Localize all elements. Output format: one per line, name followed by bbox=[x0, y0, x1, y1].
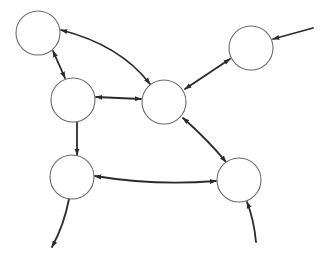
edge-external-n6 bbox=[247, 202, 256, 242]
node-n3 bbox=[51, 78, 95, 122]
edge-n4-n1 bbox=[61, 30, 150, 84]
graph-diagram bbox=[0, 0, 323, 262]
edge-n4-n2 bbox=[185, 59, 230, 89]
edge-n4-n6 bbox=[183, 118, 226, 162]
edge-n5-external bbox=[52, 199, 69, 247]
edge-n1-n3 bbox=[53, 51, 65, 78]
edge-external-n2 bbox=[273, 28, 313, 39]
edges bbox=[52, 28, 313, 247]
node-n1 bbox=[16, 11, 60, 55]
node-n6 bbox=[217, 158, 261, 202]
node-n2 bbox=[229, 26, 273, 70]
edge-n5-n6 bbox=[95, 176, 216, 183]
node-n4 bbox=[142, 80, 186, 124]
edge-n3-n4 bbox=[96, 97, 141, 99]
node-n5 bbox=[50, 155, 94, 199]
